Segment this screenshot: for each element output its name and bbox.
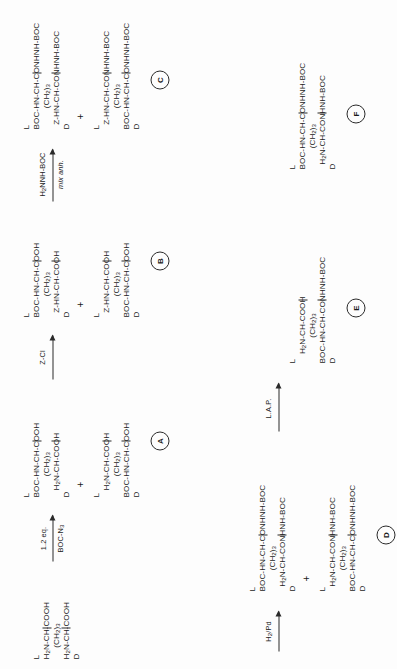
stereo-label-L: L — [22, 242, 32, 317]
chain-line-1: BOC-HN-CH-COOH — [32, 422, 42, 497]
compound-tag-D: D — [376, 525, 395, 544]
stereo-label-L: L — [248, 484, 258, 591]
compound-tag-C: C — [150, 70, 169, 89]
reagent-label-above-3: H2NNH-BOC — [37, 133, 46, 215]
compound-tag-B: B — [150, 251, 169, 270]
compound-A1: L BOC-HN-CH-COOH (CH2)3 H2N-CH-COOH D — [22, 422, 72, 497]
bond-vertical — [258, 534, 267, 535]
chain-line-2: (CH2)3 — [42, 422, 52, 497]
bond-vertical — [347, 534, 356, 535]
bond-vertical — [32, 260, 41, 261]
bond-vertical — [102, 72, 111, 73]
plus-sign-3: + — [74, 113, 85, 119]
plus-sign-1: + — [74, 481, 85, 487]
bond-vertical — [121, 440, 130, 441]
chain-line-3: BOC-HN-CH-COOH — [122, 422, 132, 497]
bond-vertical — [317, 112, 326, 113]
stereo-label-L: L — [318, 484, 328, 591]
bond-vertical — [32, 72, 41, 73]
bond-vertical — [102, 440, 111, 441]
bond-vertical — [121, 260, 130, 261]
bond-vertical — [102, 260, 111, 261]
chain-line-1: H2N-CH-COOH — [298, 256, 308, 363]
stereo-label-D: D — [62, 242, 72, 317]
stereo-label-D: D — [358, 484, 368, 591]
chain-line-1: H2N-CH-COOH — [42, 601, 52, 659]
compound-start1: L H2N-CH-COOH (CH2)3 H2N-CH-COOH D — [32, 601, 82, 659]
chain-line-1: H2N-CH-CONHNH-BOC — [328, 484, 338, 591]
bond-vertical — [317, 299, 326, 300]
stereo-label-L: L — [92, 242, 102, 317]
compound-tag-A: A — [150, 431, 169, 450]
compound-C1: L BOC-HN-CH-CONHNH-BOC (CH2)3 Z-HN-CH-CO… — [22, 22, 72, 129]
bond-vertical — [42, 627, 51, 628]
reagent-label-below-3: mix anh. — [55, 133, 64, 215]
chain-line-3: H2N-CH-CONHNH-BOC — [318, 62, 328, 169]
bond-vertical — [32, 440, 41, 441]
bond-vertical — [51, 260, 60, 261]
bond-vertical — [277, 534, 286, 535]
chain-line-3: H2N-CH-COOH — [62, 601, 72, 659]
chain-line-2: (CH2)3 — [112, 22, 122, 129]
chain-line-2: (CH2)3 — [52, 601, 62, 659]
chain-line-2: (CH2)3 — [112, 422, 122, 497]
chain-line-2: (CH2)3 — [338, 484, 348, 591]
chain-line-1: BOC-HN-CH-CONHNH-BOC — [298, 62, 308, 169]
stereo-label-L: L — [92, 22, 102, 129]
bond-vertical — [51, 72, 60, 73]
chain-line-3: BOC-HN-CH-CONHNH-BOC — [348, 484, 358, 591]
chain-line-3: BOC-HN-CH-CONHNH-BOC — [122, 22, 132, 129]
compound-F: L BOC-HN-CH-CONHNH-BOC (CH2)3 H2N-CH-CON… — [288, 62, 338, 169]
reagent-label-above-5: L.A.P. — [263, 375, 272, 441]
compound-tag-F: F — [346, 104, 365, 123]
arrow-lap — [278, 383, 279, 431]
stereo-label-D: D — [328, 256, 338, 363]
compound-D2: L H2N-CH-CONHNH-BOC (CH2)3 BOC-HN-CH-CON… — [318, 484, 368, 591]
reagent-label-above-4: H2/Pd — [263, 601, 272, 661]
stereo-label-D: D — [72, 601, 82, 659]
compound-C2: L Z-HN-CH-CONHNH-BOC (CH2)3 BOC-HN-CH-CO… — [92, 22, 142, 129]
compound-D1: L BOC-HN-CH-CONHNH-BOC (CH2)3 H2N-CH-CON… — [248, 484, 298, 591]
compound-B2: L Z-HN-CH-COOH (CH2)3 BOC-HN-CH-COOH D — [92, 242, 142, 317]
reagent-label-above-2: Z-Cl — [37, 327, 46, 387]
bond-vertical — [51, 440, 60, 441]
chain-line-3: H2N-CH-COOH — [52, 422, 62, 497]
stereo-label-L: L — [22, 422, 32, 497]
chain-line-3: H2N-CH-CONHNH-BOC — [278, 484, 288, 591]
compound-E: L H2N-CH-COOH (CH2)3 BOC-HN-CH-CONHNH-BO… — [288, 256, 338, 363]
chain-line-3: Z-HN-CH-CONHNH-BOC — [52, 22, 62, 129]
arrow-h2-pd — [278, 611, 279, 651]
stereo-label-D: D — [328, 62, 338, 169]
compound-tag-E: E — [346, 298, 365, 317]
scheme-page: L H2N-CH-COOH (CH2)3 H2N-CH-COOH D 1.2 e… — [0, 0, 397, 669]
stereo-label-L: L — [92, 422, 102, 497]
chain-line-3: BOC-HN-CH-CONHNH-BOC — [318, 256, 328, 363]
stereo-label-L: L — [288, 256, 298, 363]
chain-line-1: BOC-HN-CH-CONHNH-BOC — [32, 22, 42, 129]
bond-vertical — [328, 534, 337, 535]
stereo-label-L: L — [288, 62, 298, 169]
chain-line-2: (CH2)3 — [308, 62, 318, 169]
chain-line-1: BOC-HN-CH-COOH — [32, 242, 42, 317]
chain-line-3: Z-HN-CH-COOH — [52, 242, 62, 317]
stereo-label-D: D — [132, 22, 142, 129]
chain-line-2: (CH2)3 — [42, 22, 52, 129]
reagent-label-below-1: BOC-N3 — [55, 507, 64, 569]
bond-vertical — [298, 299, 307, 300]
chain-line-1: BOC-HN-CH-CONHNH-BOC — [258, 484, 268, 591]
compound-A2: L H2N-CH-COOH (CH2)3 BOC-HN-CH-COOH D — [92, 422, 142, 497]
arrow-boc-n3 — [52, 515, 53, 561]
chain-line-2: (CH2)3 — [268, 484, 278, 591]
stereo-label-L: L — [22, 22, 32, 129]
plus-sign-4: + — [300, 575, 311, 581]
arrow-hydrazide — [52, 149, 53, 201]
chain-line-3: BOC-HN-CH-COOH — [122, 242, 132, 317]
plus-sign-2: + — [74, 301, 85, 307]
stereo-label-D: D — [62, 22, 72, 129]
bond-vertical — [61, 627, 70, 628]
chain-line-2: (CH2)3 — [42, 242, 52, 317]
reaction-scheme-canvas: L H2N-CH-COOH (CH2)3 H2N-CH-COOH D 1.2 e… — [0, 0, 397, 669]
stereo-label-D: D — [132, 242, 142, 317]
chain-line-2: (CH2)3 — [112, 242, 122, 317]
arrow-z-cl — [52, 335, 53, 379]
